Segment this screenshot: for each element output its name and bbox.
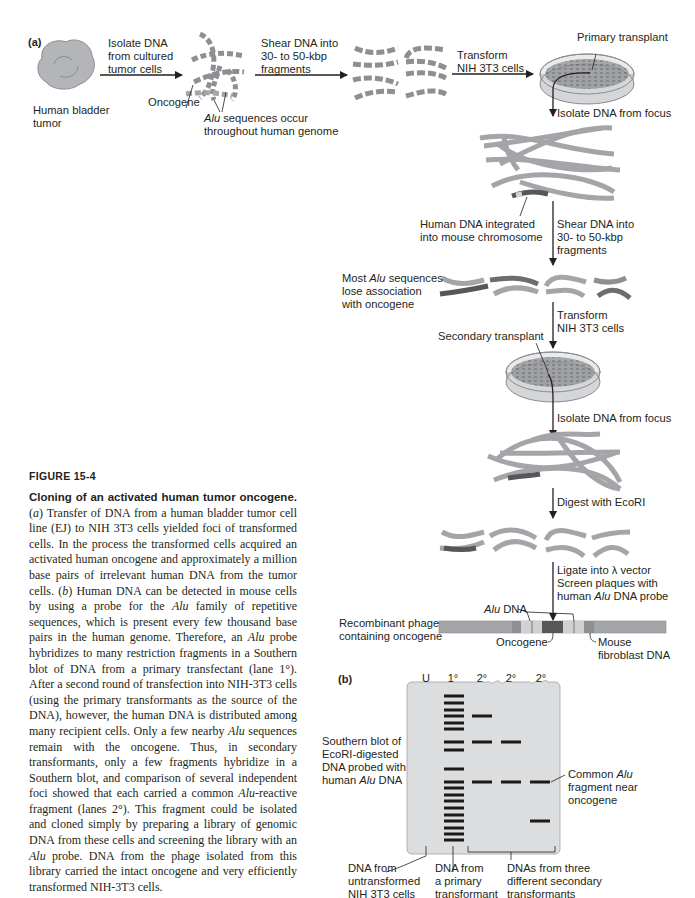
label-primary-transplant: Primary transplant [577, 31, 668, 44]
label-common-alu-3: oncogene [568, 794, 617, 807]
gel-band [444, 800, 464, 803]
figure-caption: Cloning of an activated human tumor onco… [29, 490, 297, 895]
southern-blot-gel [407, 681, 560, 854]
gel-band [444, 741, 464, 744]
label-common-alu-2: fragment near [568, 781, 638, 794]
label-secondary-transformants: DNAs from three different secondary tran… [507, 862, 602, 898]
label-recombinant-phage: Recombinant phage containing oncogene [339, 617, 442, 643]
label-screen-plaques: Screen plaques with [557, 577, 658, 590]
label-digest-ecori: Digest with EcoRI [557, 496, 645, 509]
label-most-alu: Most Alu sequences [342, 272, 443, 285]
fragments-after-shear-icon [440, 277, 630, 298]
label-ligate-lambda: Ligate into λ vector [557, 564, 651, 577]
panel-b-tag: (b) [338, 673, 352, 685]
gel-band [444, 715, 464, 718]
label-transform-2: Transform NIH 3T3 cells [557, 309, 624, 335]
label-alu-occur-2: throughout human genome [204, 125, 338, 138]
gel-band [472, 781, 492, 784]
label-southern-blot-3: DNA probed with [322, 761, 406, 774]
gel-band [444, 749, 464, 752]
gel-band [501, 781, 521, 784]
label-alu-occur: Alu sequences occur [204, 112, 308, 125]
label-alu-dna: Alu DNA [484, 603, 527, 616]
gel-band [444, 781, 464, 784]
gel-band [530, 781, 550, 784]
gel-band [444, 768, 464, 771]
label-primary-transformant: DNA from a primary transformant [435, 862, 498, 898]
figure-title: Cloning of an activated human tumor onco… [29, 491, 297, 503]
label-untransformed: DNA from untransformed NIH 3T3 cells [348, 862, 420, 898]
label-southern-blot-4: human Alu DNA [322, 774, 402, 787]
label-southern-blot-1: Southern blot of [322, 735, 401, 748]
label-transform-1: Transform NIH 3T3 cells [457, 49, 524, 75]
label-human-dna-integrated: Human DNA integrated into mouse chromoso… [420, 218, 543, 244]
gel-band [472, 741, 492, 744]
label-isolate-dna-cultured: Isolate DNA from cultured tumor cells [108, 37, 173, 76]
label-human-bladder-tumor: Human bladder tumor [33, 104, 110, 130]
figure-number: FIGURE 15-4 [29, 470, 96, 482]
lane-label-secondary-1: 2° [470, 672, 494, 684]
secondary-chromosome-strands-icon [488, 434, 620, 489]
gel-band [444, 702, 464, 705]
gel-band [501, 741, 521, 744]
lane-label-secondary-2: 2° [499, 672, 523, 684]
label-shear-dna-2: Shear DNA into 30- to 50-kbp fragments [557, 218, 634, 257]
label-lose-association: lose association with oncogene [342, 285, 422, 311]
gel-band [444, 814, 464, 817]
label-isolate-focus-1: Isolate DNA from focus [557, 107, 671, 120]
gel-band [444, 839, 464, 842]
gel-band [444, 827, 464, 830]
tumor-dna-tangle-icon [186, 34, 244, 100]
label-oncogene-2: Oncogene [496, 636, 548, 649]
label-secondary-transplant: Secondary transplant [438, 330, 544, 343]
gel-band [444, 807, 464, 810]
label-shear-dna-1: Shear DNA into 30- to 50-kbp fragments [261, 37, 338, 76]
tumor-icon [38, 40, 94, 89]
gel-band [444, 820, 464, 823]
oncogene-segment [542, 621, 563, 633]
primary-petri-dish-icon [540, 54, 634, 104]
ecori-fragments-icon [440, 530, 630, 556]
label-isolate-focus-2: Isolate DNA from focus [557, 412, 671, 425]
lane-label-u: U [414, 672, 438, 684]
gel-band [444, 709, 464, 712]
label-common-alu-1: Common Alu [568, 768, 633, 781]
gel-band [444, 722, 464, 725]
label-mouse-fibroblast: Mouse fibroblast DNA [598, 636, 670, 662]
gel-band [444, 833, 464, 836]
gel-band [472, 715, 492, 718]
lane-label-primary: 1° [441, 672, 465, 684]
label-oncogene-1: Oncogene [148, 96, 200, 109]
recombinant-phage-bar-icon [439, 621, 666, 633]
gel-band [444, 695, 464, 698]
figure-caption-text: (a) Transfer of DNA from a human bladder… [29, 506, 297, 894]
label-human-alu-probe: human Alu DNA probe [557, 590, 668, 603]
label-southern-blot-2: EcoRI-digested [322, 748, 399, 761]
dna-fragments-icon [353, 48, 446, 98]
gel-band [444, 794, 464, 797]
gel-band [530, 820, 550, 823]
mouse-chromosome-strands-icon [480, 128, 620, 198]
gel-band [444, 728, 464, 731]
lane-label-secondary-3: 2° [529, 672, 553, 684]
gel-band [444, 787, 464, 790]
